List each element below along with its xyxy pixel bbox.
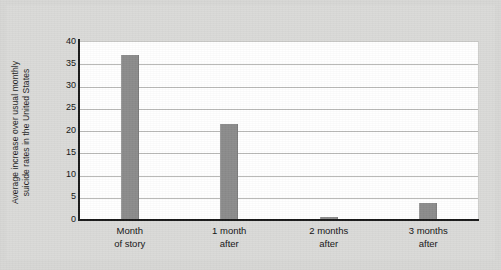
y-axis-tick-label: 30 [54,81,76,90]
gridline [80,64,478,65]
y-axis-tick-label: 5 [54,192,76,201]
x-axis-category-label: 2 months after [281,224,377,250]
x-axis-category-labels: Month of story1 month after2 months afte… [80,224,478,264]
x-axis-line [78,219,479,221]
y-axis-tick-labels: 4035302520151050 [52,0,76,270]
y-axis-tick-label: 10 [54,170,76,179]
bar [419,203,437,220]
bar [121,55,139,220]
x-axis-category-label: 3 months after [380,224,476,250]
y-axis-tick-label: 20 [54,126,76,135]
gridline [80,176,478,177]
gridline [80,109,478,110]
y-axis-tick-label: 25 [54,103,76,112]
y-axis-tick-label: 15 [54,148,76,157]
gridline [80,153,478,154]
plot-area [80,41,479,220]
x-axis-category-label: Month of story [82,224,178,250]
y-axis-tick-label: 0 [54,215,76,224]
y-axis-title: Average increase over usual monthly suic… [10,18,31,248]
y-axis-tick-label: 35 [54,59,76,68]
bar [220,124,238,220]
gridline [80,131,478,132]
gridline [80,87,478,88]
chart-page: Average increase over usual monthly suic… [0,0,501,270]
x-axis-category-label: 1 month after [181,224,277,250]
y-axis-line [78,39,80,221]
y-axis-tick-label: 40 [54,37,76,46]
gridline [80,198,478,199]
y-axis-title-container: Average increase over usual monthly suic… [0,0,40,270]
